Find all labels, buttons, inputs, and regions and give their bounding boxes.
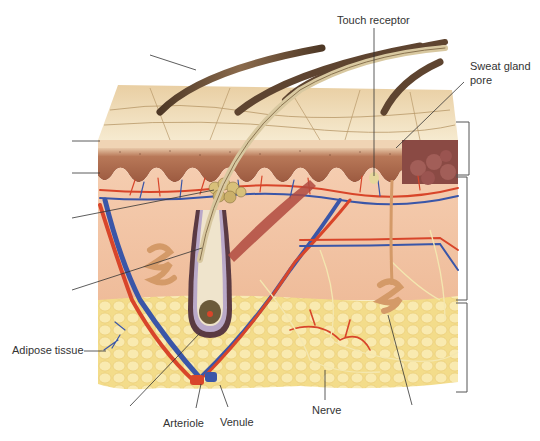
label-arteriole: Arteriole bbox=[163, 417, 204, 430]
label-sweat-gland-line2: pore bbox=[470, 74, 492, 87]
sweat-duct bbox=[391, 180, 392, 285]
label-sweat-gland-line1: Sweat gland bbox=[470, 60, 531, 73]
arteriole-end bbox=[190, 375, 204, 385]
skin-diagram: Touch receptor Sweat gland pore Adipose … bbox=[0, 0, 540, 441]
label-adipose-tissue: Adipose tissue bbox=[12, 344, 84, 357]
sweat-gland-pore-region bbox=[402, 140, 458, 185]
label-touch-receptor: Touch receptor bbox=[337, 14, 410, 27]
label-nerve: Nerve bbox=[312, 404, 341, 417]
venule-end bbox=[205, 372, 217, 382]
label-venule: Venule bbox=[220, 416, 254, 429]
skin-illustration bbox=[0, 0, 540, 441]
